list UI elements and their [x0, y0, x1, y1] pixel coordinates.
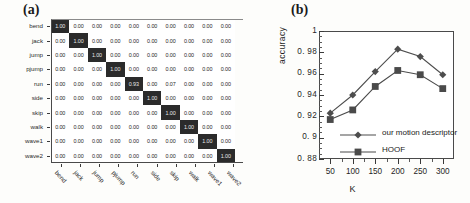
matrix-row: 0.000.000.000.000.000.000.000.000.001.00 [51, 149, 235, 163]
matrix-row-label: run [34, 80, 43, 87]
matrix-cell: 0.00 [125, 33, 143, 47]
y-tick-minor [319, 58, 322, 59]
y-tick-major [319, 31, 324, 32]
matrix-col-label: walk [188, 169, 201, 183]
matrix-row-tick [47, 127, 50, 128]
matrix-cell: 0.00 [125, 134, 143, 148]
matrix-row-label: jump [30, 51, 43, 58]
matrix-cell: 1.00 [88, 48, 106, 62]
matrix-cell: 0.00 [217, 120, 235, 134]
matrix-cell: 0.00 [106, 33, 124, 47]
matrix-cell: 0.00 [143, 48, 161, 62]
x-tick-major [330, 159, 331, 164]
matrix-cell: 0.00 [51, 48, 69, 62]
y-tick-minor [319, 90, 322, 91]
matrix-row-tick [47, 98, 50, 99]
matrix-cell: 1.00 [69, 33, 87, 47]
y-tick-minor [319, 143, 322, 144]
matrix-row-label: skip [32, 109, 43, 116]
matrix-col-tick [118, 164, 119, 167]
legend-diamond-icon [338, 129, 378, 141]
y-tick-major [319, 95, 324, 96]
matrix-cell: 0.00 [217, 48, 235, 62]
matrix-grid: 1.000.000.000.000.000.000.000.000.000.00… [51, 19, 235, 163]
x-tick-minor [409, 159, 410, 162]
matrix-cell: 0.00 [51, 134, 69, 148]
x-tick-minor [342, 159, 343, 162]
matrix-column-labels: bendjackjumppjumprunsideskipwalkwave1wav… [51, 164, 251, 203]
x-axis-label: K [235, 184, 470, 194]
matrix-cell: 0.00 [217, 134, 235, 148]
matrix-cell: 1.00 [143, 91, 161, 105]
matrix-cell: 0.00 [106, 120, 124, 134]
matrix-cell: 0.93 [125, 77, 143, 91]
matrix-cell: 0.00 [125, 19, 143, 33]
matrix-row: 0.000.000.000.000.001.000.000.000.000.00 [51, 91, 235, 105]
matrix-cell: 0.00 [125, 48, 143, 62]
matrix-cell: 1.00 [198, 134, 216, 148]
matrix-cell: 0.00 [198, 77, 216, 91]
matrix-row-tick [47, 84, 50, 85]
matrix-cell: 0.00 [198, 19, 216, 33]
matrix-cell: 0.00 [180, 19, 198, 33]
matrix-col-label: jump [92, 169, 106, 184]
matrix-row-tick [47, 26, 50, 27]
matrix-cell: 0.00 [106, 19, 124, 33]
matrix-col-label: run [130, 169, 141, 180]
matrix-cell: 0.00 [161, 33, 179, 47]
matrix-cell: 0.00 [51, 149, 69, 163]
matrix-row-tick [47, 156, 50, 157]
y-tick-label: 1 [312, 26, 317, 35]
matrix-col-tick [99, 164, 100, 167]
matrix-cell: 0.00 [143, 120, 161, 134]
data-point-square [394, 67, 401, 74]
matrix-col-label: jack [73, 169, 86, 182]
matrix-row-label: jack [32, 37, 43, 44]
matrix-cell: 0.07 [161, 77, 179, 91]
x-tick-label: 100 [346, 167, 360, 176]
matrix-cell: 1.00 [106, 62, 124, 76]
matrix-cell: 0.00 [161, 149, 179, 163]
matrix-cell: 0.00 [69, 120, 87, 134]
y-tick-label: 0. 94 [297, 90, 317, 99]
y-tick-minor [319, 127, 322, 128]
matrix-cell: 0.00 [51, 33, 69, 47]
matrix-row: 0.000.000.000.000.000.001.000.000.000.00 [51, 105, 235, 119]
matrix-row-tick [47, 113, 50, 114]
y-tick-minor [319, 111, 322, 112]
x-tick-label: 300 [436, 167, 450, 176]
matrix-cell: 0.00 [88, 19, 106, 33]
matrix-cell: 0.00 [217, 19, 235, 33]
matrix-col-tick [80, 164, 81, 167]
y-tick-minor [319, 42, 322, 43]
y-tick-minor [319, 63, 322, 64]
matrix-cell: 1.00 [161, 105, 179, 119]
y-tick-minor [319, 47, 322, 48]
x-tick-label: 200 [391, 167, 405, 176]
y-tick-label: 0. 96 [297, 68, 317, 77]
matrix-cell: 0.00 [180, 149, 198, 163]
matrix-cell: 0.00 [106, 91, 124, 105]
matrix-row: 0.000.000.000.000.000.000.001.000.000.00 [51, 120, 235, 134]
y-tick-minor [319, 106, 322, 107]
matrix-cell: 0.00 [69, 77, 87, 91]
y-tick-major [319, 159, 324, 160]
data-point-square [372, 83, 379, 90]
matrix-cell: 0.00 [198, 105, 216, 119]
matrix-cell: 0.00 [88, 134, 106, 148]
matrix-cell: 0.00 [198, 33, 216, 47]
x-tick-minor [387, 159, 388, 162]
matrix-cell: 0.00 [88, 120, 106, 134]
matrix-cell: 0.00 [217, 62, 235, 76]
matrix-cell: 0.00 [180, 48, 198, 62]
matrix-cell: 0.00 [143, 19, 161, 33]
matrix-col-tick [157, 164, 158, 167]
matrix-row-tick [47, 41, 50, 42]
matrix-col-tick [195, 164, 196, 167]
data-point-square [327, 116, 334, 123]
matrix-cell: 0.00 [161, 48, 179, 62]
matrix-col-label: pjump [111, 169, 127, 186]
matrix-col-tick [176, 164, 177, 167]
data-point-square [349, 107, 356, 114]
matrix-cell: 0.00 [69, 134, 87, 148]
